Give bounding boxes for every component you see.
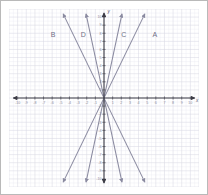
x-tick-label: 6 — [155, 101, 157, 105]
x-tick-label: 3 — [129, 101, 131, 105]
y-tick-label: -8 — [98, 161, 101, 165]
x-tick-label: 10 — [188, 101, 192, 105]
y-tick-label: -7 — [98, 153, 101, 157]
y-tick-label: -3 — [98, 121, 101, 125]
y-tick-label: -6 — [98, 145, 101, 149]
y-tick-label: 9 — [99, 23, 101, 27]
y-tick-label: -1 — [98, 104, 101, 108]
x-tick-label: -9 — [25, 101, 28, 105]
axes — [13, 13, 194, 183]
y-tick-label: 7 — [99, 40, 101, 44]
x-tick-label: -10 — [15, 101, 20, 105]
series-label-c: C — [121, 31, 126, 38]
figure-frame: -10-9-8-7-6-5-4-3-2-11234567891010987654… — [0, 0, 208, 195]
x-tick-label: -4 — [68, 101, 71, 105]
x-tick-label: -6 — [51, 101, 54, 105]
x-tick-label: -7 — [42, 101, 45, 105]
y-tick-label: -5 — [98, 137, 101, 141]
coordinate-plane: -10-9-8-7-6-5-4-3-2-11234567891010987654… — [9, 9, 199, 187]
series-label-d: D — [81, 31, 86, 38]
x-tick-label: -3 — [76, 101, 79, 105]
x-tick-label: 2 — [120, 101, 122, 105]
x-tick-label: 5 — [146, 101, 148, 105]
y-tick-label: 10 — [97, 15, 101, 19]
y-tick-label: 6 — [99, 48, 101, 52]
x-tick-label: 7 — [163, 101, 165, 105]
series-label-b: B — [51, 31, 56, 38]
x-axis-label: x — [195, 98, 199, 103]
y-tick-label: -4 — [98, 129, 101, 133]
y-tick-label: 4 — [99, 64, 101, 68]
x-tick-label: 1 — [112, 101, 114, 105]
y-tick-label: -2 — [98, 112, 101, 116]
series-label-a: A — [153, 31, 158, 38]
y-tick-label: 1 — [99, 88, 101, 92]
y-tick-label: 8 — [99, 32, 101, 36]
x-tick-label: 4 — [138, 101, 140, 105]
y-tick-label: -10 — [96, 177, 101, 181]
x-tick-label: 9 — [181, 101, 183, 105]
x-tick-label: -8 — [33, 101, 36, 105]
x-tick-label: -5 — [59, 101, 62, 105]
x-tick-label: 8 — [172, 101, 174, 105]
y-tick-label: -9 — [98, 169, 101, 173]
graph-svg: -10-9-8-7-6-5-4-3-2-11234567891010987654… — [9, 9, 199, 187]
y-tick-label: 5 — [99, 56, 101, 60]
x-tick-label: -1 — [94, 101, 97, 105]
x-tick-label: -2 — [85, 101, 88, 105]
y-tick-label: 2 — [99, 80, 101, 84]
y-tick-label: 3 — [99, 72, 101, 76]
